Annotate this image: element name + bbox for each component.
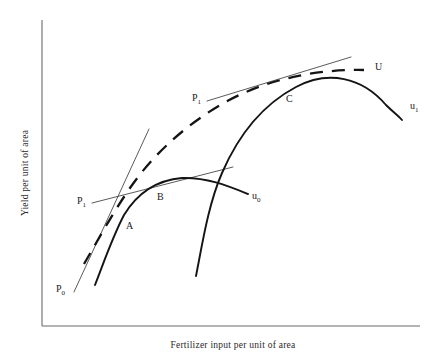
label-curve-u0-subscript: 0 <box>257 196 261 204</box>
label-point-c: C <box>286 94 293 104</box>
label-curve-u0: u0 <box>252 191 261 204</box>
label-curve-u1: u1 <box>410 101 419 114</box>
label-p1-lower: P1 <box>77 196 86 209</box>
label-curve-u1-subscript: 1 <box>415 106 419 114</box>
label-curve-u: U <box>375 62 382 72</box>
label-p1-lower-subscript: 1 <box>83 201 87 209</box>
label-p1-upper-subscript: 1 <box>198 98 202 106</box>
x-axis-title: Fertilizer input per unit of area <box>108 340 358 350</box>
axis-group <box>42 20 420 326</box>
label-point-a: A <box>126 221 133 231</box>
label-p1-upper: P1 <box>192 93 201 106</box>
y-axis-title: Yield per unit of area <box>20 93 30 253</box>
tangent-line-p0 <box>74 129 149 292</box>
tangent-lines-group <box>74 57 351 292</box>
tangent-line-p1-upper <box>207 57 351 101</box>
plot-canvas <box>0 0 445 360</box>
curve-u1 <box>196 78 402 276</box>
label-p0: P0 <box>56 284 65 297</box>
label-p0-subscript: 0 <box>62 289 66 297</box>
fertilizer-yield-response-figure: Yield per unit of area Fertilizer input … <box>0 0 445 360</box>
curve-u0 <box>95 178 248 285</box>
label-point-b: B <box>157 192 164 202</box>
